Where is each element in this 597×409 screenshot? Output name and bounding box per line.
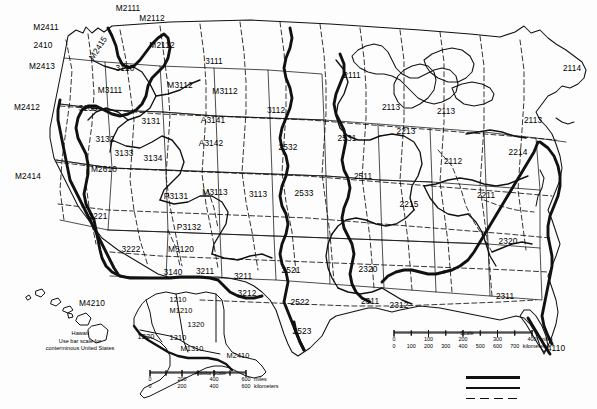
province-label-m2112-2: M2112 xyxy=(139,14,164,22)
province-label-3134-28: 3134 xyxy=(144,154,163,162)
province-label-3135-15: 3135 xyxy=(79,104,98,112)
province-label-2113-17: 2113 xyxy=(437,107,455,115)
province-label-2113-18: 2113 xyxy=(524,116,542,124)
province-label-3140-45: 3140 xyxy=(164,268,183,276)
main-scale-km-tick-1: 100 xyxy=(407,343,416,349)
province-label-m2610-30: M2610 xyxy=(91,165,117,173)
province-label-2113-16: 2113 xyxy=(382,103,400,111)
province-label-3132-23: 3132 xyxy=(96,135,115,143)
alaska-province-label-1320: 1320 xyxy=(188,321,205,328)
alaska-province-label-1220: 1220 xyxy=(138,333,155,340)
alaska-scale-km-tick-2: 400 xyxy=(210,383,219,389)
province-label-m3113-34: M3113 xyxy=(202,188,227,196)
hawaii-caption: Hawaii Use bar scale for conterminous Un… xyxy=(46,330,115,353)
province-label-4110-56: 4110 xyxy=(547,344,565,352)
province-label-2211-39: 2211 xyxy=(477,191,495,199)
province-label-m2112-5: M2112 xyxy=(149,41,174,49)
province-label-3211-46: 3211 xyxy=(196,267,214,275)
province-label-2114-10: 2114 xyxy=(563,64,581,72)
province-label-m2413-6: M2413 xyxy=(29,62,55,70)
province-label-3120-7: 3120 xyxy=(116,64,135,72)
legend-line-domain-boundary xyxy=(466,376,520,379)
main-scale-km-tick-0: 0 xyxy=(393,343,396,349)
alaska-scale-bar: Alaska Scale 0200400600miles 0200400600k… xyxy=(148,370,273,390)
province-label-2311-52: 2311 xyxy=(361,297,379,305)
province-label-2320-44: 2320 xyxy=(499,237,518,245)
main-scale-km-tick-6: 600 xyxy=(493,343,502,349)
province-label-m2111-1: M2111 xyxy=(116,4,141,12)
province-label-2311-54: 2311 xyxy=(496,292,514,300)
province-label-3211-47: 3211 xyxy=(234,272,252,280)
province-label-m3112-11: M3112 xyxy=(167,81,192,89)
alaska-province-label-m2410: M2410 xyxy=(226,352,249,359)
boundary-legend xyxy=(466,376,528,406)
province-label-m2412-14: M2412 xyxy=(14,103,40,111)
main-scale-km-tick-7: 700 xyxy=(510,343,519,349)
alaska-scale-km-labels: 0200400600kilometers xyxy=(148,383,273,390)
province-label-3212-50: 3212 xyxy=(238,289,257,297)
province-label-3222-42: 3222 xyxy=(122,245,141,253)
hawaii-caption-line2: Use bar scale for xyxy=(46,338,115,346)
main-scale-km-bar xyxy=(392,330,542,338)
province-label-3221-40: 3221 xyxy=(89,212,108,220)
province-label-2533-36: 2533 xyxy=(295,189,314,197)
alaska-scale-km-tick-3: 600 xyxy=(242,383,251,389)
province-label-2511-33: 2511 xyxy=(354,172,372,180)
main-scale-km-unit: kilometers xyxy=(523,343,548,349)
hawaii-province-label: M4210 xyxy=(79,299,105,307)
province-label-m2414-29: M2414 xyxy=(15,172,41,180)
alaska-province-label-1310: 1310 xyxy=(170,334,187,341)
province-label-2532-26: 2532 xyxy=(279,143,298,151)
province-label-2521-48: 2521 xyxy=(282,266,301,274)
province-label-2523-55: 2523 xyxy=(293,327,312,335)
province-label-2320-49: 2320 xyxy=(359,265,378,273)
province-label-2112-32: 2112 xyxy=(444,157,462,165)
province-label-3113-35: 3113 xyxy=(249,190,267,198)
alaska-scale-km-tick-1: 200 xyxy=(178,383,187,389)
main-scale-bar: Scale 0100200300400miles 010020030040050… xyxy=(392,330,542,350)
province-label-p3131-37: P3131 xyxy=(164,192,189,200)
province-label-2111-9: 2111 xyxy=(343,71,361,79)
main-scale-km-tick-4: 400 xyxy=(459,343,468,349)
legend-line-division-boundary xyxy=(466,387,520,389)
province-label-a3141-21: A3141 xyxy=(201,116,226,124)
province-label-3133-27: 3133 xyxy=(115,149,134,157)
alaska-scale-km-unit: kilometers xyxy=(254,383,279,389)
province-label-2213-22: 2213 xyxy=(397,127,416,135)
alaska-scale-km-bar xyxy=(148,370,273,378)
province-label-m3111-12: M3111 xyxy=(98,86,123,94)
alaska-province-label-1210: 1210 xyxy=(170,296,187,303)
province-label-3111-8: 3111 xyxy=(205,57,223,65)
hawaii-caption-line3: conterminous United States xyxy=(46,345,115,353)
province-label-3112-19: 3112 xyxy=(267,106,285,114)
province-label-2214-31: 2214 xyxy=(509,148,528,156)
alaska-scale-km-tick-0: 0 xyxy=(149,383,152,389)
province-label-m3112-13: M3112 xyxy=(212,87,237,95)
province-label-2410-3: 2410 xyxy=(34,41,53,49)
province-label-p3132-41: P3132 xyxy=(177,223,202,231)
province-label-m3120-43: M3120 xyxy=(168,245,194,253)
main-scale-km-tick-2: 200 xyxy=(424,343,433,349)
alaska-province-label-m1310: M1310 xyxy=(180,345,203,352)
main-scale-km-labels: 0100200300400500600700kilometers xyxy=(392,343,542,350)
legend-line-province-boundary xyxy=(466,398,520,399)
ecoregion-map: M2411M2111M21122410M2415M2112M2413312031… xyxy=(0,0,597,409)
province-label-2531-25: 2531 xyxy=(338,134,357,142)
province-label-2522-51: 2522 xyxy=(291,298,310,306)
main-scale-km-tick-5: 500 xyxy=(476,343,485,349)
province-label-2215-38: 2215 xyxy=(400,200,419,208)
province-label-a3142-24: A3142 xyxy=(199,139,224,147)
alaska-province-label-m1210: M1210 xyxy=(169,307,192,314)
hawaii-caption-line1: Hawaii xyxy=(46,330,115,338)
division-boundaries xyxy=(88,60,532,304)
main-scale-km-tick-3: 300 xyxy=(441,343,450,349)
province-label-3131-20: 3131 xyxy=(142,117,161,125)
province-label-m2411-0: M2411 xyxy=(33,23,58,31)
province-label-2312-53: 2312 xyxy=(390,301,409,309)
